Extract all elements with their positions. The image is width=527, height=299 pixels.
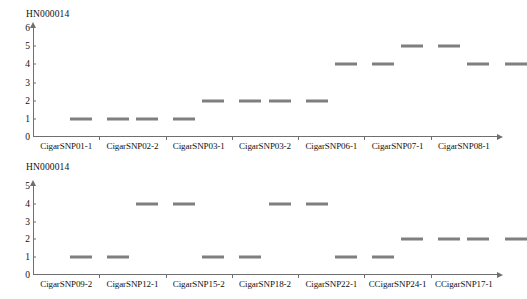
data-marker-top-11 bbox=[438, 45, 460, 48]
data-marker-top-12 bbox=[467, 63, 489, 66]
y-axis-tick-mark-top-2 bbox=[33, 100, 36, 101]
plot-area-bottom: 012345 CigarSNP09-2CigarSNP12-1CigarSNP1… bbox=[33, 186, 497, 275]
y-axis-tick-mark-top-3 bbox=[33, 82, 36, 83]
y-axis-tick-label-top-3: 3 bbox=[25, 78, 33, 88]
data-marker-top-0 bbox=[70, 117, 92, 120]
chart-title-bottom: HN000014 bbox=[26, 162, 69, 172]
chart-panel-bottom: HN000014 012345 CigarSNP09-2CigarSNP12-1… bbox=[0, 152, 505, 299]
data-marker-bottom-11 bbox=[438, 238, 460, 241]
x-axis-label-bottom-5: CCigarSNP24-1 bbox=[369, 279, 427, 289]
x-axis-label-bottom-1: CigarSNP12-1 bbox=[107, 279, 159, 289]
x-axis-label-top-6: CigarSNP08-1 bbox=[438, 141, 490, 151]
x-axis-tick-mark-top-5 bbox=[364, 137, 365, 140]
y-axis-tick-label-top-0: 0 bbox=[25, 132, 33, 142]
data-marker-top-9 bbox=[372, 63, 394, 66]
data-marker-bottom-8 bbox=[335, 256, 357, 259]
data-marker-top-10 bbox=[401, 45, 423, 48]
data-marker-bottom-0 bbox=[70, 256, 92, 259]
x-axis-label-top-5: CigarSNP07-1 bbox=[372, 141, 424, 151]
y-axis-tick-label-bottom-1: 1 bbox=[25, 252, 33, 262]
y-axis-tick-label-top-5: 5 bbox=[25, 41, 33, 51]
chart-panel-top: HN000014 0123456 CigarSNP01-1CigarSNP02-… bbox=[0, 0, 505, 152]
y-axis-tick-mark-top-4 bbox=[33, 64, 36, 65]
data-marker-bottom-1 bbox=[107, 256, 129, 259]
x-axis-tick-mark-top-4 bbox=[298, 137, 299, 140]
data-marker-top-5 bbox=[239, 99, 261, 102]
x-axis-tick-mark-bottom-1 bbox=[99, 275, 100, 278]
data-marker-bottom-12 bbox=[467, 238, 489, 241]
x-axis-tick-mark-top-3 bbox=[232, 137, 233, 140]
y-axis-tick-label-bottom-4: 4 bbox=[25, 199, 33, 209]
x-axis-label-bottom-3: CigarSNP18-2 bbox=[239, 279, 291, 289]
y-axis-tick-mark-bottom-1 bbox=[33, 257, 36, 258]
data-marker-top-1 bbox=[107, 117, 129, 120]
y-axis-tick-label-bottom-3: 3 bbox=[25, 217, 33, 227]
x-axis-label-top-4: CigarSNP06-1 bbox=[305, 141, 357, 151]
plot-area-top: 0123456 CigarSNP01-1CigarSNP02-2CigarSNP… bbox=[33, 28, 497, 137]
x-axis-line-top bbox=[33, 136, 497, 137]
x-axis-tick-mark-bottom-5 bbox=[364, 275, 365, 278]
x-axis-label-top-3: CigarSNP03-2 bbox=[239, 141, 291, 151]
x-axis-label-top-1: CigarSNP02-2 bbox=[107, 141, 159, 151]
y-axis-tick-mark-top-1 bbox=[33, 118, 36, 119]
data-marker-top-2 bbox=[136, 117, 158, 120]
y-axis-tick-mark-bottom-4 bbox=[33, 203, 36, 204]
x-axis-tick-mark-bottom-6 bbox=[431, 275, 432, 278]
data-marker-top-7 bbox=[306, 99, 328, 102]
x-axis-label-bottom-2: CigarSNP15-2 bbox=[173, 279, 225, 289]
x-axis-label-bottom-6: CCigarSNP17-1 bbox=[435, 279, 493, 289]
x-axis-label-top-2: CigarSNP03-1 bbox=[173, 141, 225, 151]
y-axis-tick-label-top-2: 2 bbox=[25, 96, 33, 106]
y-axis-tick-label-top-4: 4 bbox=[25, 59, 33, 69]
x-axis-tick-mark-top-2 bbox=[166, 137, 167, 140]
y-axis-tick-label-bottom-0: 0 bbox=[25, 270, 33, 280]
data-marker-top-3 bbox=[173, 117, 195, 120]
x-axis-tick-mark-top-6 bbox=[431, 137, 432, 140]
y-axis-tick-mark-bottom-2 bbox=[33, 239, 36, 240]
x-axis-label-top-0: CigarSNP01-1 bbox=[40, 141, 92, 151]
y-axis-tick-mark-top-5 bbox=[33, 46, 36, 47]
x-axis-tick-mark-bottom-2 bbox=[166, 275, 167, 278]
data-marker-top-4 bbox=[202, 99, 224, 102]
data-marker-bottom-7 bbox=[306, 202, 328, 205]
data-marker-bottom-4 bbox=[202, 256, 224, 259]
x-axis-arrow-bottom bbox=[497, 272, 503, 278]
y-axis-tick-label-top-6: 6 bbox=[25, 23, 33, 33]
y-axis-tick-mark-bottom-3 bbox=[33, 221, 36, 222]
data-marker-bottom-6 bbox=[269, 202, 291, 205]
x-axis-tick-mark-top-1 bbox=[99, 137, 100, 140]
data-marker-top-13 bbox=[505, 63, 527, 66]
data-marker-bottom-9 bbox=[372, 256, 394, 259]
x-axis-tick-mark-bottom-4 bbox=[298, 275, 299, 278]
data-marker-bottom-10 bbox=[401, 238, 423, 241]
x-axis-tick-mark-bottom-3 bbox=[232, 275, 233, 278]
data-marker-bottom-5 bbox=[239, 256, 261, 259]
data-marker-top-6 bbox=[269, 99, 291, 102]
y-axis-line-bottom bbox=[33, 186, 34, 275]
y-axis-tick-label-bottom-5: 5 bbox=[25, 181, 33, 191]
x-axis-label-bottom-0: CigarSNP09-2 bbox=[40, 279, 92, 289]
x-axis-arrow-top bbox=[497, 134, 503, 140]
data-marker-bottom-3 bbox=[173, 202, 195, 205]
chart-title-top: HN000014 bbox=[26, 9, 69, 19]
x-axis-label-bottom-4: CigarSNP22-1 bbox=[305, 279, 357, 289]
data-marker-top-8 bbox=[335, 63, 357, 66]
data-marker-bottom-13 bbox=[505, 238, 527, 241]
x-axis-line-bottom bbox=[33, 274, 497, 275]
y-axis-tick-label-top-1: 1 bbox=[25, 114, 33, 124]
data-marker-bottom-2 bbox=[136, 202, 158, 205]
y-axis-tick-label-bottom-2: 2 bbox=[25, 234, 33, 244]
